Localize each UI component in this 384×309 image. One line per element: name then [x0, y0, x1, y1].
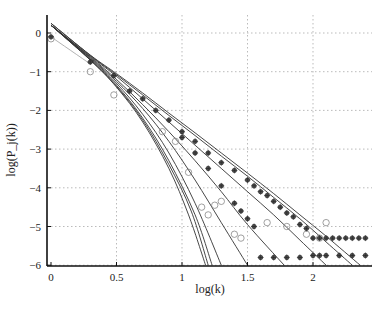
circle-marker [231, 231, 237, 237]
star-marker-cross [258, 189, 264, 195]
circle-marker [198, 204, 204, 210]
x-tick-label: 1 [179, 271, 185, 283]
x-tick-label: 0.5 [110, 271, 124, 283]
star-marker-cross [192, 150, 198, 156]
axes [47, 15, 372, 266]
star-marker-cross [323, 253, 329, 259]
star-marker-cross [349, 253, 355, 259]
y-tick-label: −1 [29, 66, 41, 78]
star-marker-cross [297, 254, 303, 260]
star-marker-cross [179, 129, 185, 135]
fit-curve [51, 25, 248, 265]
star-marker-cross [362, 253, 368, 259]
circle-marker [212, 202, 218, 208]
star-marker-cross [310, 235, 316, 241]
gridlines [47, 15, 372, 266]
star-marker-cross [356, 235, 362, 241]
tick-labels: 00.511.520−1−2−3−4−5−6 [29, 27, 315, 283]
star-marker-cross [166, 117, 172, 123]
y-tick-label: −2 [29, 104, 41, 116]
star-marker-cross [343, 235, 349, 241]
y-axis-label: log(P_j(k)) [4, 123, 18, 176]
chart-canvas: 00.511.520−1−2−3−4−5−6 log(k) log(P_j(k)… [0, 0, 384, 309]
fit-curve [51, 25, 212, 265]
x-tick-label: 2 [310, 271, 316, 283]
circle-marker [264, 219, 270, 225]
x-axis-label: log(k) [195, 282, 224, 296]
star-marker-cross [284, 210, 290, 216]
circle-marker [323, 219, 329, 225]
circle-marker [205, 212, 211, 218]
star-marker-cross [205, 165, 211, 171]
star-marker-cross [231, 167, 237, 173]
y-tick-label: −4 [29, 182, 41, 194]
circle-marker [111, 92, 117, 98]
circle-marker [159, 128, 165, 134]
star-marker-cross [284, 254, 290, 260]
star-marker-cross [238, 208, 244, 214]
star-marker-cross [362, 235, 368, 241]
star-marker-cross [317, 253, 323, 259]
star-marker-cross [271, 254, 277, 260]
star-marker-cross [251, 224, 257, 230]
star-marker-cross [218, 160, 224, 166]
x-tick-label: 1.5 [241, 271, 255, 283]
x-tick-label: 0 [48, 271, 54, 283]
fit-curve [51, 25, 208, 265]
circle-marker [284, 223, 290, 229]
star-marker-cross [336, 235, 342, 241]
star-marker-cross [336, 253, 342, 259]
y-tick-label: 0 [36, 27, 42, 39]
y-tick-label: −5 [29, 221, 41, 233]
y-tick-label: −6 [29, 259, 41, 271]
y-tick-label: −3 [29, 143, 41, 155]
star-marker-cross [245, 216, 251, 222]
star-marker-cross [258, 254, 264, 260]
star-marker-cross [349, 235, 355, 241]
star-marker-cross [297, 222, 303, 228]
star-marker-cross [277, 204, 283, 210]
circle-marker [303, 231, 309, 237]
star-marker-cross [48, 34, 54, 40]
fit-curve [51, 25, 206, 265]
circle-marker [238, 235, 244, 241]
circle-marker [218, 198, 224, 204]
data-series [48, 23, 369, 265]
star-marker-cross [310, 253, 316, 259]
